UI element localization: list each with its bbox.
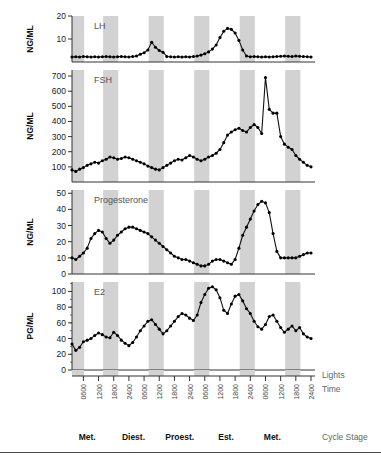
data-point	[124, 155, 127, 158]
time-tick-label: 2400	[247, 384, 254, 400]
data-point	[264, 55, 267, 58]
data-point	[112, 239, 115, 242]
lights-off-band	[72, 370, 84, 376]
data-point	[283, 54, 286, 57]
lights-off-band	[240, 370, 255, 376]
data-point	[150, 318, 153, 321]
data-point	[256, 325, 259, 328]
data-point	[203, 52, 206, 55]
time-tick-label: 1200	[217, 384, 224, 400]
data-point	[222, 260, 225, 263]
y-tick-label: 100	[52, 162, 66, 172]
data-point	[93, 161, 96, 164]
y-tick-label: 30	[57, 221, 67, 231]
lights-off-band	[194, 282, 209, 370]
data-point	[237, 247, 240, 250]
data-point	[272, 112, 275, 115]
data-point	[226, 27, 229, 30]
data-point	[283, 331, 286, 334]
data-point	[158, 242, 161, 245]
data-point	[97, 229, 100, 232]
data-point	[203, 293, 206, 296]
data-point	[302, 55, 305, 58]
data-point	[120, 157, 123, 160]
y-tick-label: 200	[52, 147, 66, 157]
data-point	[256, 55, 259, 58]
y-tick-label: 50	[57, 188, 67, 198]
data-point	[135, 335, 138, 338]
y-tick-label: 40	[57, 204, 67, 214]
data-point	[211, 260, 214, 263]
y-tick-label: 100	[52, 286, 66, 296]
data-point	[279, 55, 282, 58]
data-point	[78, 168, 81, 171]
data-point	[294, 256, 297, 259]
data-point	[105, 158, 108, 161]
data-point	[302, 332, 305, 335]
figure-canvas: 1020LHNG/ML100200300400500600700FSHNG/ML…	[0, 0, 381, 466]
data-point	[188, 55, 191, 58]
lights-off-band	[285, 70, 300, 182]
data-point	[139, 53, 142, 56]
data-point	[207, 50, 210, 53]
data-point	[298, 55, 301, 58]
data-point	[287, 146, 290, 149]
lights-off-band	[149, 190, 164, 274]
data-point	[154, 46, 157, 49]
data-point	[294, 54, 297, 57]
hormone-cycle-figure: 1020LHNG/ML100200300400500600700FSHNG/ML…	[0, 0, 381, 466]
label-lights: Lights	[322, 370, 345, 380]
data-point	[249, 312, 252, 315]
data-point	[256, 203, 259, 206]
data-point	[184, 258, 187, 261]
lights-off-band	[103, 282, 118, 370]
data-point	[86, 164, 89, 167]
data-point	[253, 55, 256, 58]
data-point	[306, 164, 309, 167]
data-point	[124, 227, 127, 230]
time-tick-label: 1800	[232, 384, 239, 400]
data-point	[230, 28, 233, 31]
data-point	[275, 55, 278, 58]
time-tick-label: 1200	[156, 384, 163, 400]
data-point	[211, 154, 214, 157]
data-point	[146, 165, 149, 168]
data-point	[82, 166, 85, 169]
data-point	[298, 158, 301, 161]
lights-off-band	[194, 190, 209, 274]
data-point	[272, 55, 275, 58]
data-point	[169, 324, 172, 327]
data-point	[253, 123, 256, 126]
data-point	[108, 55, 111, 58]
data-point	[264, 76, 267, 79]
data-point	[165, 329, 168, 332]
lights-off-band	[194, 70, 209, 182]
data-point	[150, 166, 153, 169]
data-point	[82, 55, 85, 58]
data-point	[169, 162, 172, 165]
bottom-divider	[0, 452, 381, 453]
data-point	[279, 326, 282, 329]
data-point	[215, 43, 218, 46]
data-point	[192, 55, 195, 58]
data-point	[74, 170, 77, 173]
data-point	[127, 156, 130, 159]
data-point	[158, 168, 161, 171]
data-point	[131, 226, 134, 229]
cycle-stage-label: Proest.	[165, 432, 194, 442]
y-tick-label: 80	[57, 302, 67, 312]
data-point	[143, 51, 146, 54]
data-point	[241, 129, 244, 132]
data-point	[215, 258, 218, 261]
data-point	[207, 263, 210, 266]
lights-off-band	[240, 190, 255, 274]
data-point	[256, 126, 259, 129]
data-point	[150, 41, 153, 44]
data-point	[196, 54, 199, 57]
data-point	[234, 128, 237, 131]
data-point	[101, 230, 104, 233]
data-point	[135, 227, 138, 230]
y-tick-label: 400	[52, 116, 66, 126]
data-point	[112, 331, 115, 334]
data-point	[272, 313, 275, 316]
